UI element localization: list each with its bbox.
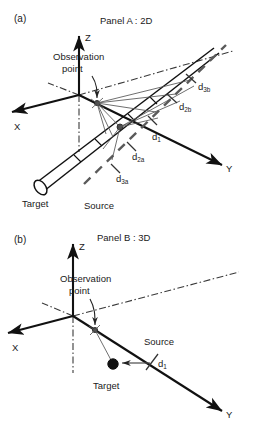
panel-b-diagram: (b) Panel B : 3D Z X Y Observation point… bbox=[0, 215, 256, 434]
y-axis-label: Y bbox=[226, 409, 233, 420]
x-axis bbox=[8, 316, 73, 333]
z-axis-label: Z bbox=[85, 32, 91, 43]
rod-band-4 bbox=[150, 97, 157, 104]
d3a-label: d3a bbox=[116, 173, 129, 185]
target-marker bbox=[108, 359, 118, 369]
y-axis-label: Y bbox=[226, 163, 233, 174]
d1-label: d1 bbox=[152, 131, 161, 143]
d3a-tickmark bbox=[111, 164, 120, 173]
ray-src-4 bbox=[120, 101, 180, 127]
target-label: Target bbox=[22, 198, 49, 209]
observation-point-label-line2: point bbox=[62, 63, 83, 74]
z-axis-label: Z bbox=[79, 241, 85, 252]
d1-tickmark bbox=[148, 116, 157, 125]
source-label: Source bbox=[84, 200, 114, 211]
ray-src-3 bbox=[120, 118, 158, 127]
d2b-label: d2b bbox=[179, 101, 192, 113]
d2a-label: d2a bbox=[132, 151, 145, 163]
target-label: Target bbox=[93, 380, 120, 391]
rod-band-1 bbox=[74, 155, 81, 162]
projection-guide-line-left bbox=[42, 303, 73, 316]
rod-band-2 bbox=[95, 139, 102, 146]
panel-a-diagram: (a) Panel A : 2D Z X Y bbox=[0, 0, 256, 215]
figure-container: (a) Panel A : 2D Z X Y bbox=[0, 0, 256, 434]
target-rod-end-cap bbox=[31, 178, 49, 197]
panel-a-title: Panel A : 2D bbox=[100, 15, 152, 26]
d3b-label: d3b bbox=[198, 81, 211, 93]
projection-guide-line-left bbox=[48, 83, 79, 95]
d2a-tickmark bbox=[127, 142, 136, 151]
panel-b-title: Panel B : 3D bbox=[97, 232, 150, 243]
panel-a-tag: (a) bbox=[14, 13, 26, 24]
observation-point-callout-arrow bbox=[92, 76, 97, 98]
x-axis-label: X bbox=[12, 342, 19, 353]
source-label: Source bbox=[144, 336, 174, 347]
d1-label: d1 bbox=[158, 358, 167, 370]
observation-point-label-line2: point bbox=[69, 285, 90, 296]
observation-point-label-line1: Observation bbox=[53, 51, 104, 62]
observation-point-callout-arrow bbox=[90, 299, 95, 325]
panel-b-tag: (b) bbox=[14, 234, 26, 245]
x-axis bbox=[12, 95, 79, 112]
ray-obs-4 bbox=[97, 94, 176, 103]
source-beam-dashed bbox=[84, 45, 226, 184]
observation-point-label-line1: Observation bbox=[60, 273, 111, 284]
ray-obs-5 bbox=[97, 80, 190, 103]
x-axis-label: X bbox=[14, 121, 21, 132]
